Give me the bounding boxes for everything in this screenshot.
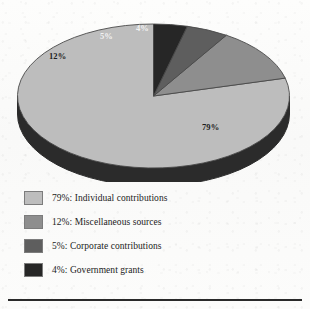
slice-label-2: 5% — [100, 31, 113, 41]
pie-chart-svg — [0, 4, 310, 182]
legend-row: 4%: Government grants — [24, 262, 144, 278]
document-page: 79% 12% 5% 4% 79%: Individual contributi… — [0, 0, 310, 309]
slice-label-3: 4% — [136, 23, 149, 33]
legend-row: 79%: Individual contributions — [24, 190, 167, 206]
legend-item-label: 12%: Miscellaneous sources — [52, 217, 161, 227]
pie-chart: 79% 12% 5% 4% — [0, 4, 310, 182]
pie-slices — [17, 24, 289, 168]
footer-divider — [8, 299, 302, 301]
legend-swatch-icon — [24, 191, 43, 205]
legend-item-label: 79%: Individual contributions — [52, 193, 167, 203]
chart-legend: 79%: Individual contributions 12%: Misce… — [0, 186, 310, 286]
legend-swatch-icon — [24, 263, 43, 277]
legend-row: 5%: Corporate contributions — [24, 238, 162, 254]
slice-label-1: 12% — [49, 51, 66, 61]
legend-swatch-icon — [24, 215, 43, 229]
legend-item-label: 5%: Corporate contributions — [52, 241, 162, 251]
legend-row: 12%: Miscellaneous sources — [24, 214, 161, 230]
legend-item-label: 4%: Government grants — [52, 265, 144, 275]
legend-swatch-icon — [24, 239, 43, 253]
slice-label-0: 79% — [202, 122, 219, 132]
